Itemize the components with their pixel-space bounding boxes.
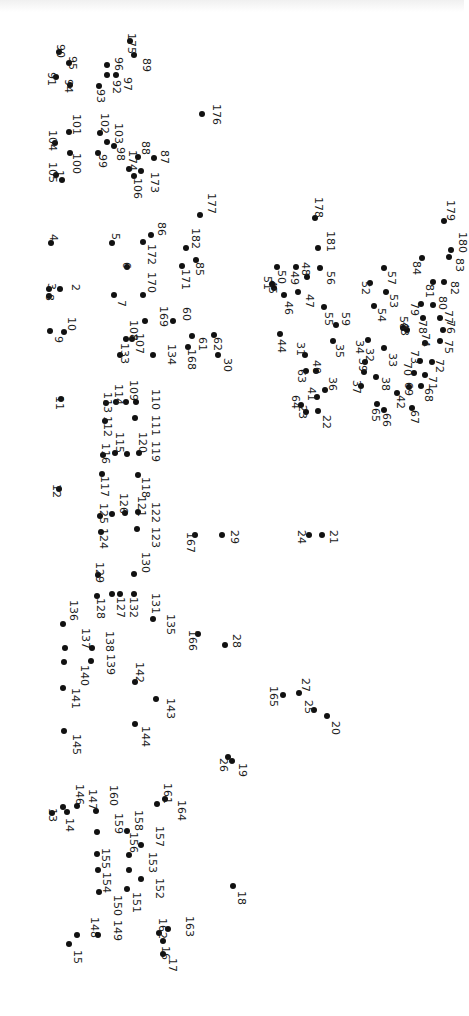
dot-number-label: 69 bbox=[403, 382, 414, 396]
dot-number-label: 6 bbox=[121, 262, 132, 269]
dot-number-label: 19 bbox=[237, 763, 248, 777]
dot-number-label: 133 bbox=[119, 343, 130, 364]
dot-number-label: 97 bbox=[122, 77, 133, 91]
dot-number-label: 38 bbox=[380, 377, 391, 391]
dot-number-label: 31 bbox=[295, 342, 306, 356]
dot-number-label: 142 bbox=[134, 662, 145, 683]
dot-number-label: 105 bbox=[47, 162, 58, 183]
dot-number-label: 88 bbox=[140, 141, 151, 155]
dot-number-label: 15 bbox=[72, 950, 83, 964]
dot-number-label: 12 bbox=[51, 484, 62, 498]
puzzle-dot bbox=[95, 932, 101, 938]
puzzle-dot bbox=[319, 532, 325, 538]
dot-number-label: 173 bbox=[149, 172, 160, 193]
puzzle-dot bbox=[126, 867, 132, 873]
puzzle-dot bbox=[124, 451, 130, 457]
puzzle-dot bbox=[60, 804, 66, 810]
dot-number-label: 116 bbox=[100, 443, 111, 464]
dot-number-label: 145 bbox=[71, 734, 82, 755]
puzzle-dot bbox=[133, 399, 139, 405]
dot-number-label: 132 bbox=[128, 597, 139, 618]
dot-number-label: 123 bbox=[150, 527, 161, 548]
dot-number-label: 37 bbox=[351, 380, 362, 394]
dot-number-label: 125 bbox=[98, 503, 109, 524]
dot-number-label: 27 bbox=[300, 678, 311, 692]
puzzle-dot bbox=[295, 289, 301, 295]
dot-number-label: 75 bbox=[443, 340, 454, 354]
dot-number-label: 13 bbox=[47, 808, 58, 822]
dot-number-label: 150 bbox=[112, 895, 123, 916]
puzzle-dot bbox=[93, 808, 99, 814]
puzzle-dot bbox=[47, 328, 53, 334]
dot-number-label: 18 bbox=[236, 891, 247, 905]
puzzle-dot bbox=[162, 796, 168, 802]
dot-number-label: 35 bbox=[334, 344, 345, 358]
puzzle-dot bbox=[94, 829, 100, 835]
dot-number-label: 63 bbox=[296, 369, 307, 383]
dot-number-label: 24 bbox=[296, 530, 307, 544]
puzzle-dot bbox=[160, 951, 166, 957]
puzzle-dot bbox=[151, 155, 157, 161]
dot-number-label: 72 bbox=[434, 359, 445, 373]
dot-number-label: 177 bbox=[206, 193, 217, 214]
dot-number-label: 103 bbox=[113, 123, 124, 144]
puzzle-dot bbox=[324, 713, 330, 719]
dot-number-label: 9 bbox=[53, 336, 64, 343]
dot-number-label: 165 bbox=[268, 686, 279, 707]
dot-number-label: 160 bbox=[108, 785, 119, 806]
dot-number-label: 109 bbox=[128, 380, 139, 401]
dot-number-label: 155 bbox=[100, 848, 111, 869]
puzzle-dot bbox=[135, 509, 141, 515]
puzzle-dot bbox=[89, 645, 95, 651]
puzzle-dot bbox=[381, 345, 387, 351]
dot-number-label: 91 bbox=[46, 72, 57, 86]
puzzle-dot bbox=[197, 212, 203, 218]
dot-number-label: 8 bbox=[44, 294, 55, 301]
dot-number-label: 144 bbox=[140, 726, 151, 747]
dot-number-label: 94 bbox=[63, 79, 74, 93]
puzzle-dot bbox=[150, 616, 156, 622]
dot-number-label: 108 bbox=[128, 320, 139, 341]
dot-number-label: 167 bbox=[185, 532, 196, 553]
dot-number-label: 30 bbox=[222, 358, 233, 372]
dot-number-label: 166 bbox=[187, 630, 198, 651]
dot-number-label: 176 bbox=[211, 104, 222, 125]
dot-number-label: 46 bbox=[283, 301, 294, 315]
dot-number-label: 141 bbox=[70, 688, 81, 709]
dot-number-label: 158 bbox=[133, 810, 144, 831]
dot-number-label: 58 bbox=[398, 316, 409, 330]
dot-number-label: 36 bbox=[327, 377, 338, 391]
puzzle-dot bbox=[189, 333, 195, 339]
puzzle-dot bbox=[61, 728, 67, 734]
dot-number-label: 4 bbox=[48, 234, 59, 241]
dot-number-label: 26 bbox=[218, 758, 229, 772]
dot-number-label: 60 bbox=[181, 307, 192, 321]
dot-number-label: 11 bbox=[54, 396, 65, 410]
puzzle-dot bbox=[230, 883, 236, 889]
puzzle-dot bbox=[317, 265, 323, 271]
dot-number-label: 130 bbox=[140, 552, 151, 573]
dot-number-label: 136 bbox=[68, 600, 79, 621]
dot-number-label: 64 bbox=[290, 395, 301, 409]
puzzle-dot bbox=[153, 696, 159, 702]
puzzle-dot bbox=[222, 642, 228, 648]
puzzle-dot bbox=[111, 292, 117, 298]
dot-number-label: 44 bbox=[276, 339, 287, 353]
dot-number-label: 71 bbox=[427, 376, 438, 390]
dot-number-label: 170 bbox=[146, 272, 157, 293]
puzzle-dot bbox=[138, 842, 144, 848]
dot-number-label: 153 bbox=[147, 852, 158, 873]
puzzle-dot bbox=[446, 254, 452, 260]
dot-number-label: 47 bbox=[304, 294, 315, 308]
dot-number-label: 14 bbox=[64, 818, 75, 832]
puzzle-dot bbox=[219, 532, 225, 538]
dot-number-label: 52 bbox=[360, 281, 371, 295]
dot-number-label: 77 bbox=[443, 310, 454, 324]
dot-number-label: 62 bbox=[212, 337, 223, 351]
puzzle-dot bbox=[315, 408, 321, 414]
dot-number-label: 28 bbox=[231, 634, 242, 648]
dot-number-label: 119 bbox=[150, 441, 161, 462]
puzzle-dot bbox=[132, 721, 138, 727]
dot-number-label: 51 bbox=[262, 276, 273, 290]
